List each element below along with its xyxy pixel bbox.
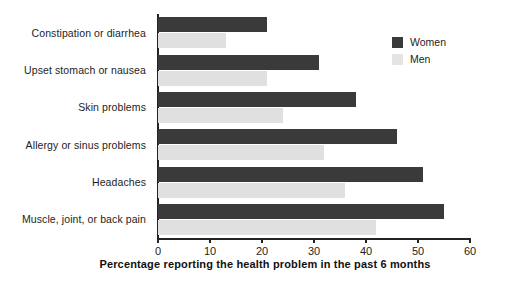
category-label: Skin problems — [0, 101, 146, 113]
x-axis-tick — [157, 238, 159, 243]
category-label: Headaches — [0, 176, 146, 188]
legend-swatch-icon — [392, 37, 403, 48]
x-axis-tick — [261, 238, 263, 243]
x-axis-tick — [469, 238, 471, 243]
legend-label: Men — [410, 53, 430, 65]
bar — [158, 204, 444, 219]
category-label: Constipation or diarrhea — [0, 27, 146, 39]
chart-legend: WomenMen — [392, 36, 512, 70]
bar — [158, 17, 267, 32]
bar — [158, 183, 345, 198]
legend-item: Women — [392, 36, 512, 48]
bar — [158, 55, 319, 70]
category-label: Upset stomach or nausea — [0, 64, 146, 76]
bar — [158, 129, 397, 144]
x-axis-tick-label: 0 — [155, 245, 161, 257]
x-axis-tick-label: 10 — [204, 245, 216, 257]
bar — [158, 108, 283, 123]
x-axis-tick-label: 50 — [412, 245, 424, 257]
legend-label: Women — [410, 36, 446, 48]
legend-item: Men — [392, 53, 512, 65]
x-axis-title: Percentage reporting the health problem … — [0, 258, 530, 270]
x-axis-tick-label: 60 — [464, 245, 476, 257]
x-axis-tick-label: 30 — [308, 245, 320, 257]
x-axis-tick — [417, 238, 419, 243]
x-axis-tick — [209, 238, 211, 243]
bar — [158, 33, 226, 48]
category-axis-labels: Constipation or diarrheaUpset stomach or… — [0, 14, 152, 238]
x-axis-tick-label: 40 — [360, 245, 372, 257]
bar — [158, 167, 423, 182]
health-problems-bar-chart: Constipation or diarrheaUpset stomach or… — [0, 0, 530, 285]
bar — [158, 145, 324, 160]
bar — [158, 71, 267, 86]
x-axis-tick — [313, 238, 315, 243]
category-label: Allergy or sinus problems — [0, 139, 146, 151]
x-axis-tick — [365, 238, 367, 243]
category-label: Muscle, joint, or back pain — [0, 213, 146, 225]
legend-swatch-icon — [392, 54, 403, 65]
x-axis-tick-label: 20 — [256, 245, 268, 257]
bar — [158, 92, 356, 107]
bar — [158, 220, 376, 235]
